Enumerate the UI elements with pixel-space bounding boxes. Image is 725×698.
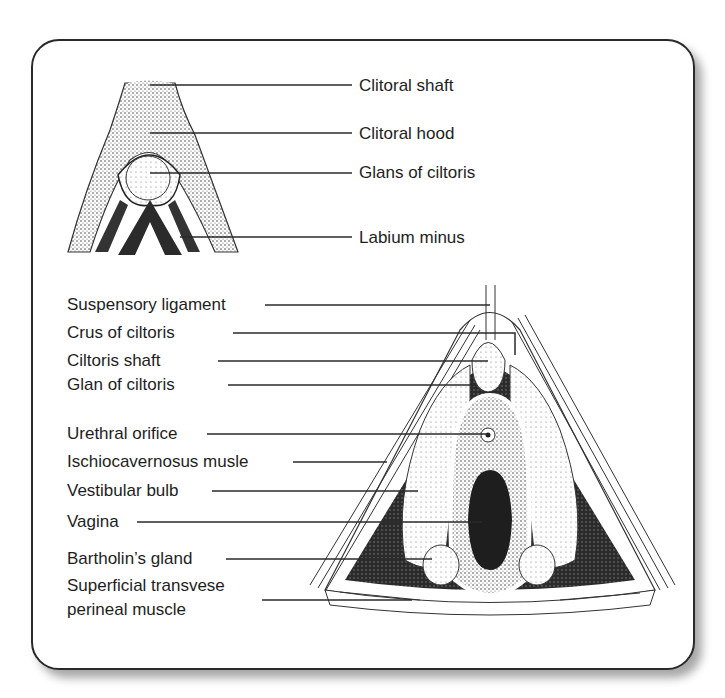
label-labium-minus: Labium minus (359, 228, 465, 248)
label-clitoral-hood: Clitoral hood (359, 124, 454, 144)
label-clitoris-shaft: Ciltoris shaft (67, 351, 161, 371)
label-vestibular-bulb: Vestibular bulb (67, 481, 179, 501)
external-clitoris-illustration (68, 81, 238, 256)
label-superficial-transverse: Superficial transvese (67, 576, 225, 596)
label-suspensory-ligament: Suspensory ligament (67, 295, 226, 315)
internal-anatomy-illustration (310, 285, 675, 615)
label-perineal-muscle: perineal muscle (67, 600, 186, 620)
label-ischiocavernosus-muscle: Ischiocavernosus musle (67, 452, 248, 472)
label-urethral-orifice: Urethral orifice (67, 424, 178, 444)
label-glan-of-clitoris: Glan of ciltoris (67, 375, 175, 395)
label-clitoral-shaft: Clitoral shaft (359, 76, 453, 96)
label-crus-of-clitoris: Crus of ciltoris (67, 323, 175, 343)
label-bartholins-gland: Bartholin’s gland (67, 549, 192, 569)
label-vagina: Vagina (67, 512, 119, 532)
label-glans-of-clitoris: Glans of ciltoris (359, 163, 475, 183)
